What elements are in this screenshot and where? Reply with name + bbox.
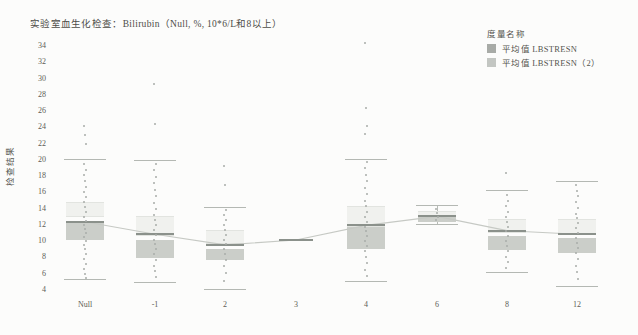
- data-point: [506, 194, 508, 196]
- data-point: [506, 221, 508, 223]
- whisker-cap-top: [134, 160, 176, 161]
- legend-item[interactable]: 平均值 LBSTRESN: [487, 43, 600, 53]
- data-point: [364, 200, 366, 202]
- data-point: [224, 184, 226, 186]
- data-point: [154, 270, 156, 272]
- data-point: [576, 190, 578, 192]
- data-point: [85, 186, 87, 188]
- legend-swatch-icon: [487, 44, 496, 53]
- data-point: [223, 214, 225, 216]
- quartile-box-upper: [206, 230, 244, 244]
- whisker-cap-top: [416, 205, 458, 206]
- data-point: [577, 247, 579, 249]
- legend-item-label: 平均值 LBSTRESN（2）: [502, 56, 600, 68]
- data-point: [577, 258, 579, 260]
- y-tick-label: 32: [24, 57, 46, 66]
- data-point: [85, 196, 87, 198]
- y-tick-label: 18: [24, 171, 46, 180]
- data-point: [575, 237, 577, 239]
- data-point: [505, 267, 507, 269]
- data-point: [85, 169, 87, 171]
- data-point: [577, 207, 579, 209]
- data-point: [153, 202, 155, 204]
- data-point: [507, 211, 509, 213]
- data-point: [155, 208, 157, 210]
- data-point: [576, 242, 578, 244]
- data-point: [365, 107, 367, 109]
- y-tick-label: 8: [24, 252, 46, 261]
- data-point: [83, 224, 85, 226]
- x-tick-label: 8: [485, 300, 529, 309]
- data-point: [435, 208, 437, 210]
- data-point: [507, 200, 509, 202]
- data-point: [83, 244, 85, 246]
- data-point: [83, 258, 85, 260]
- data-point: [84, 180, 86, 182]
- data-point: [153, 239, 155, 241]
- data-point: [83, 163, 85, 165]
- data-point: [153, 169, 155, 171]
- chart-title: 实验室血生化检查：Bilirubin（Null, %, 10*6/L和8以上）: [30, 16, 283, 30]
- x-tick-label: 6: [415, 300, 459, 309]
- whisker-cap-bottom: [556, 286, 598, 287]
- data-point: [83, 174, 85, 176]
- data-point: [225, 234, 227, 236]
- y-axis-label: 检查结果: [3, 131, 15, 201]
- data-point: [155, 259, 157, 261]
- data-point: [83, 125, 85, 127]
- data-point: [84, 248, 86, 250]
- data-point: [85, 253, 87, 255]
- data-point: [364, 133, 366, 135]
- data-point: [364, 167, 366, 169]
- y-tick-label: 14: [24, 204, 46, 213]
- data-point: [84, 134, 86, 136]
- data-point: [505, 205, 507, 207]
- whisker-cap-top: [64, 159, 106, 160]
- data-point: [364, 187, 366, 189]
- y-tick-label: 22: [24, 139, 46, 148]
- y-tick-label: 12: [24, 220, 46, 229]
- data-point: [84, 206, 86, 208]
- quartile-box-lower: [558, 238, 596, 253]
- data-point: [364, 42, 366, 44]
- y-tick-label: 30: [24, 74, 46, 83]
- mean-bar: [279, 239, 313, 241]
- data-point: [85, 240, 87, 242]
- data-point: [577, 195, 579, 197]
- data-point: [575, 252, 577, 254]
- data-point: [505, 172, 507, 174]
- y-tick-label: 20: [24, 155, 46, 164]
- whisker-cap-bottom: [204, 289, 246, 290]
- data-point: [155, 176, 157, 178]
- legend: 度量名称 平均值 LBSTRESN平均值 LBSTRESN（2）: [487, 27, 600, 71]
- y-tick-label: 26: [24, 106, 46, 115]
- data-point: [153, 182, 155, 184]
- data-point: [366, 262, 368, 264]
- data-point: [366, 161, 368, 163]
- data-point: [83, 191, 85, 193]
- data-point: [366, 221, 368, 223]
- data-point: [575, 201, 577, 203]
- y-tick-label: 10: [24, 236, 46, 245]
- data-point: [577, 278, 579, 280]
- data-point: [85, 143, 87, 145]
- data-point: [365, 256, 367, 258]
- data-point: [366, 275, 368, 277]
- data-point: [85, 220, 87, 222]
- data-point: [223, 165, 225, 167]
- x-tick-label: 2: [203, 300, 247, 309]
- legend-item[interactable]: 平均值 LBSTRESN（2）: [487, 57, 600, 67]
- data-point: [153, 265, 155, 267]
- y-tick-label: 4: [24, 285, 46, 294]
- data-point: [85, 263, 87, 265]
- whisker-cap-bottom: [64, 279, 106, 280]
- data-point: [153, 214, 155, 216]
- x-tick-label: 12: [555, 300, 599, 309]
- whisker-cap-bottom: [416, 224, 458, 225]
- legend-title: 度量名称: [487, 27, 600, 39]
- y-tick-label: 24: [24, 122, 46, 131]
- data-point: [84, 273, 86, 275]
- y-tick-label: 6: [24, 269, 46, 278]
- legend-swatch-icon: [487, 58, 496, 67]
- x-tick-label: -1: [133, 300, 177, 309]
